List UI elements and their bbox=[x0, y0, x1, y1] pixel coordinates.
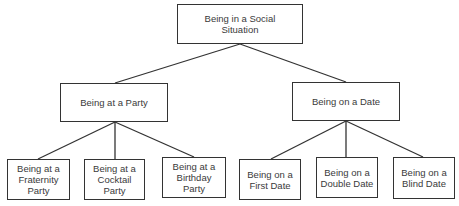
connector-root-date bbox=[240, 44, 346, 82]
connector-date-blind bbox=[346, 121, 423, 157]
node-label-line: Being at a bbox=[17, 163, 60, 174]
node-label-line: Party bbox=[173, 183, 216, 194]
node-label-line: Blind Date bbox=[401, 178, 446, 189]
connector-date-first bbox=[271, 121, 346, 159]
node-label-line: Being in a Social bbox=[205, 13, 276, 24]
node-label-line: Fraternity bbox=[17, 174, 60, 185]
connector-party-birthday bbox=[115, 122, 194, 157]
node-label-line: Being at a bbox=[93, 163, 136, 174]
node-blind-date: Being on a Blind Date bbox=[393, 157, 455, 199]
node-label-line: Being on a bbox=[401, 167, 446, 178]
node-label-line: Being on a bbox=[321, 167, 374, 178]
node-first-date: Being on a First Date bbox=[239, 159, 301, 200]
node-label-line: Party bbox=[93, 185, 136, 196]
node-label-line: Birthday bbox=[173, 172, 216, 183]
node-fraternity-party: Being at a Fraternity Party bbox=[7, 159, 70, 200]
node-label: Being on a Date bbox=[312, 96, 380, 107]
node-label-line: Cocktail bbox=[93, 174, 136, 185]
node-double-date: Being on a Double Date bbox=[316, 157, 378, 198]
node-label-line: Being on a bbox=[247, 169, 292, 180]
connector-party-fraternity bbox=[38, 122, 115, 159]
node-label-line: First Date bbox=[247, 180, 292, 191]
node-social-situation: Being in a Social Situation bbox=[177, 4, 303, 44]
node-label-line: Party bbox=[17, 185, 60, 196]
node-cocktail-party: Being at a Cocktail Party bbox=[84, 159, 145, 200]
node-label: Being at a Party bbox=[80, 97, 148, 108]
node-birthday-party: Being at a Birthday Party bbox=[162, 157, 226, 198]
connector-root-party bbox=[115, 44, 240, 83]
node-label-line: Double Date bbox=[321, 178, 374, 189]
node-label-line: Being at a bbox=[173, 161, 216, 172]
node-label-line: Situation bbox=[205, 24, 276, 35]
node-date: Being on a Date bbox=[292, 82, 400, 121]
node-party: Being at a Party bbox=[60, 83, 168, 122]
